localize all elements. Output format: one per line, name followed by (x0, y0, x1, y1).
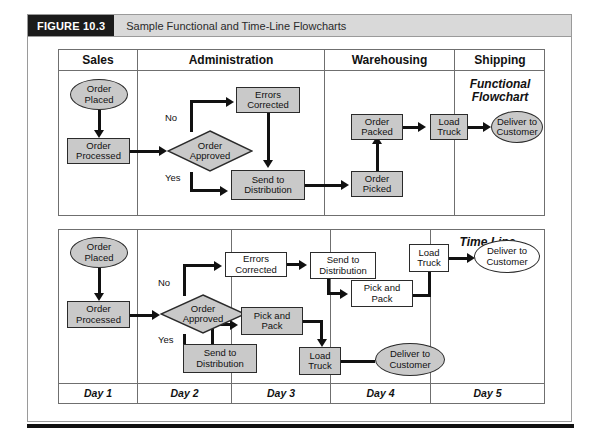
figure-bottom-rule (27, 424, 574, 428)
node-send-to-distribution[interactable]: Send to Distribution (231, 170, 305, 200)
diamond-icon (167, 130, 253, 172)
node-label: Order Processed (76, 304, 121, 325)
figure-frame: FIGURE 10.3 Sample Functional and Time-L… (27, 14, 572, 422)
lane-footer-day-5: Day 5 (431, 386, 544, 401)
lane-footer-day-4: Day 4 (331, 386, 430, 401)
node-deliver-to-customer-no[interactable]: Deliver to Customer (474, 240, 540, 273)
lane-header-rule (59, 70, 544, 71)
branch-label-yes: Yes (158, 334, 174, 345)
node-label: Load Truck (308, 351, 331, 372)
arrowhead-right (340, 289, 348, 299)
node-pick-and-pack-no[interactable]: Pick and Pack (351, 280, 413, 307)
lane-footer-day-2: Day 2 (138, 386, 231, 401)
connector-no-vertical (190, 100, 193, 132)
lane-header-shipping: Shipping (455, 52, 545, 69)
arrowhead-down (317, 339, 327, 347)
figure-caption: Sample Functional and Time-Line Flowchar… (114, 15, 346, 36)
node-order-processed[interactable]: Order Processed (67, 138, 130, 164)
node-send-to-distribution-yes[interactable]: Send to Distribution (183, 344, 257, 373)
connector-placed-to-processed (98, 110, 101, 132)
connector-pickno-up (428, 270, 431, 294)
lane-divider-1 (137, 50, 138, 215)
arrowhead-right (299, 260, 307, 270)
arrowhead-down (94, 130, 104, 138)
connector-processed-to-decision (130, 150, 162, 153)
node-label: Send to Distribution (244, 175, 292, 196)
lane-header-administration: Administration (138, 52, 324, 69)
node-errors-corrected[interactable]: Errors Corrected (236, 87, 300, 113)
node-order-placed[interactable]: Order Placed (70, 237, 128, 268)
node-label: Pick and Pack (254, 311, 290, 332)
node-label: Order Packed (361, 117, 393, 138)
node-pick-and-pack-yes[interactable]: Pick and Pack (241, 307, 303, 335)
arrowhead-right (214, 261, 222, 271)
node-label: Errors Corrected (247, 90, 289, 111)
branch-label-no: No (158, 277, 170, 288)
node-send-to-distribution-no[interactable]: Send to Distribution (310, 252, 376, 279)
connector-truckyes-to-deliver (341, 360, 375, 363)
arrowhead-right (152, 310, 160, 320)
connector-errors-to-send (267, 113, 270, 163)
figure-header: FIGURE 10.3 Sample Functional and Time-L… (28, 15, 571, 37)
connector-picked-to-packed (376, 141, 379, 171)
lane-header-sales: Sales (59, 52, 137, 69)
node-label: Load Truck (437, 117, 460, 138)
node-order-processed[interactable]: Order Processed (67, 301, 130, 328)
arrowhead-down (263, 160, 273, 168)
node-label: Order Placed (84, 84, 113, 105)
node-label: Errors Corrected (235, 254, 277, 275)
node-label: Order Placed (84, 242, 113, 263)
node-label: Pick and Pack (364, 283, 400, 304)
node-order-placed[interactable]: Order Placed (70, 79, 128, 110)
node-label: Send to Distribution (319, 255, 367, 276)
connector-no-vertical (183, 264, 186, 296)
node-label: Order Picked (363, 174, 392, 195)
branch-label-no: No (165, 112, 177, 123)
lane-divider-1 (137, 230, 138, 403)
node-order-packed[interactable]: Order Packed (351, 114, 403, 140)
connector-yes-horizontal (190, 189, 224, 192)
arrowhead-right (159, 146, 167, 156)
lane-header-warehousing: Warehousing (325, 52, 454, 69)
arrowhead-right (341, 180, 349, 190)
connector-no-horizontal (183, 264, 218, 267)
node-order-picked[interactable]: Order Picked (351, 171, 403, 197)
arrowhead-right (483, 122, 491, 132)
node-order-approved-decision[interactable]: Order Approved (160, 294, 246, 334)
lane-footer-day-1: Day 1 (59, 386, 137, 401)
arrowhead-down (94, 293, 104, 301)
node-load-truck-yes[interactable]: Load Truck (299, 347, 341, 375)
node-label: Deliver to Customer (389, 349, 430, 370)
node-label: Deliver to Customer (486, 246, 527, 267)
connector-no-horizontal (190, 100, 230, 103)
node-label: Load Truck (417, 248, 440, 269)
arrowhead-right (226, 97, 234, 107)
arrowhead-right (418, 122, 426, 132)
node-label: Deliver to Customer (496, 117, 537, 138)
node-deliver-to-customer-yes[interactable]: Deliver to Customer (375, 343, 445, 376)
diamond-icon (160, 294, 246, 334)
branch-label-yes: Yes (165, 172, 181, 183)
lane-footer-day-3: Day 3 (232, 386, 330, 401)
functional-flowchart-panel: Sales Administration Warehousing Shippin… (58, 49, 545, 216)
node-deliver-to-customer[interactable]: Deliver to Customer (491, 111, 543, 143)
lane-footer-rule (59, 383, 544, 384)
node-load-truck[interactable]: Load Truck (430, 114, 468, 140)
timeline-flowchart-panel: Day 1 Day 2 Day 3 Day 4 Day 5 Time Line … (58, 229, 545, 404)
figure-number-badge: FIGURE 10.3 (28, 15, 114, 36)
arrowhead-right (220, 186, 228, 196)
node-label: Order Processed (76, 141, 121, 162)
node-load-truck-no[interactable]: Load Truck (409, 244, 449, 272)
node-label: Send to Distribution (196, 348, 244, 369)
connector-send-to-picked (305, 184, 344, 187)
lane-divider-2 (324, 50, 325, 215)
node-order-approved-decision[interactable]: Order Approved (167, 130, 253, 172)
connector-placed-to-processed (98, 268, 101, 296)
functional-flowchart-title: Functional Flowchart (455, 78, 545, 104)
node-errors-corrected[interactable]: Errors Corrected (225, 252, 287, 277)
